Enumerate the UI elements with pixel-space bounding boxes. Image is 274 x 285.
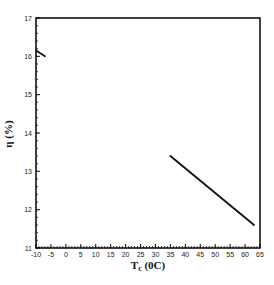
y-tick-label: 11 (25, 245, 32, 252)
segment-high-temperature (170, 156, 254, 225)
minor-ticks (36, 18, 260, 248)
major-ticks (36, 18, 260, 248)
x-tick-label: 60 (241, 251, 249, 258)
x-axis-title: Tc (0C) (131, 259, 166, 273)
plot-frame (36, 18, 260, 248)
x-tick-label: 40 (181, 251, 189, 258)
y-tick-label: 12 (24, 206, 32, 213)
x-axis-unit: (0C) (142, 259, 166, 272)
x-tick-label: 55 (226, 251, 234, 258)
x-tick-label: 45 (196, 251, 204, 258)
x-tick-label: 25 (137, 251, 145, 258)
y-tick-label: 17 (24, 15, 32, 22)
segment-low-temperature (36, 51, 45, 57)
y-tick-label: 13 (24, 168, 32, 175)
efficiency-vs-temperature-chart: -10-505101520253035404550556065 11121314… (0, 0, 274, 285)
y-tick-label: 15 (24, 91, 32, 98)
x-tick-label: 30 (152, 251, 160, 258)
x-tick-label: 0 (64, 251, 68, 258)
y-tick-label: 16 (24, 53, 32, 60)
y-tick-labels: 11121314151617 (24, 15, 32, 252)
x-tick-label: -10 (31, 251, 41, 258)
x-tick-label: -5 (48, 251, 54, 258)
x-tick-label: 65 (256, 251, 264, 258)
x-tick-label: 15 (107, 251, 115, 258)
x-tick-label: 20 (122, 251, 130, 258)
y-axis-title: η (%) (2, 120, 15, 148)
x-tick-label: 5 (79, 251, 83, 258)
x-tick-label: 50 (211, 251, 219, 258)
x-tick-label: 10 (92, 251, 100, 258)
x-tick-labels: -10-505101520253035404550556065 (31, 251, 264, 258)
data-series (36, 51, 254, 225)
y-tick-label: 14 (24, 130, 32, 137)
x-tick-label: 35 (167, 251, 175, 258)
